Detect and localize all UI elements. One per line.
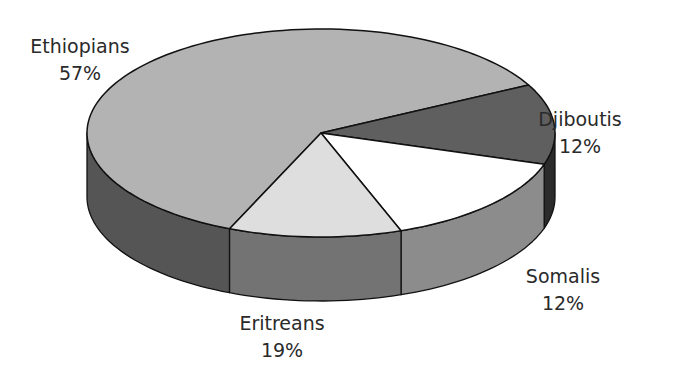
label-eritreans-name: Eritreans: [239, 310, 324, 337]
label-ethiopians: Ethiopians 57%: [30, 33, 129, 87]
label-djiboutis-pct: 12%: [538, 133, 622, 160]
label-somalis: Somalis 12%: [526, 263, 600, 317]
label-ethiopians-name: Ethiopians: [30, 33, 129, 60]
label-eritreans: Eritreans 19%: [239, 310, 324, 364]
side-eritreans: [230, 229, 401, 301]
label-djiboutis: Djiboutis 12%: [538, 106, 622, 160]
pie-top-faces: [87, 29, 555, 237]
label-somalis-pct: 12%: [526, 290, 600, 317]
label-eritreans-pct: 19%: [239, 337, 324, 364]
label-somalis-name: Somalis: [526, 263, 600, 290]
label-ethiopians-pct: 57%: [30, 60, 129, 87]
label-djiboutis-name: Djiboutis: [538, 106, 622, 133]
